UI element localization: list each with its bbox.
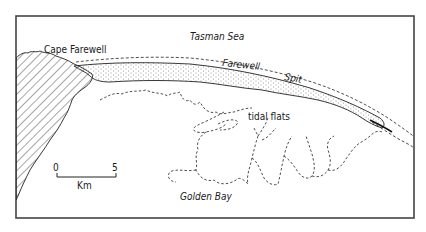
label-cape-farewell: Cape Farewell: [44, 44, 107, 55]
scale-bar: 0 5 Km: [53, 162, 118, 191]
low-water-line-inner: [372, 122, 416, 150]
cape-farewell-land: [16, 51, 93, 200]
farewell-spit: [74, 63, 384, 128]
tidal-channel-west: [168, 170, 196, 182]
label-golden-bay: Golden Bay: [180, 191, 232, 202]
scale-end: 5: [112, 162, 118, 173]
scale-start: 0: [53, 162, 59, 173]
map-canvas: Cape Farewell Tasman Sea Farewell Spit t…: [0, 0, 426, 232]
tidal-channel-loop: [218, 120, 238, 130]
label-tasman-sea: Tasman Sea: [190, 31, 244, 42]
scale-unit: Km: [77, 180, 92, 191]
label-tidal-flats: tidal flats: [248, 111, 290, 122]
